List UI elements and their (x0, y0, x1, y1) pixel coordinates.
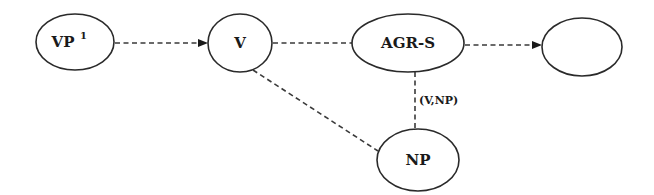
node-vp1: VP 1 (36, 14, 114, 70)
node-v: V (208, 14, 272, 72)
node-vp1-shape (36, 14, 114, 70)
node-np-label: NP (406, 151, 431, 169)
node-vp1-label: VP (51, 33, 75, 51)
node-np: NP (377, 129, 459, 191)
edge-v-to-np (253, 70, 378, 151)
node-v-label: V (233, 34, 246, 52)
node-empty (542, 18, 622, 76)
node-empty-shape (542, 18, 622, 76)
node-vp1-superscript: 1 (80, 30, 87, 41)
edge-label-v-np: (V,NP) (419, 94, 458, 107)
node-agrs-label: AGR-S (380, 34, 435, 52)
diagram-canvas: (V,NP) VP 1 V AGR-S NP (0, 0, 654, 195)
node-agrs: AGR-S (352, 14, 464, 72)
